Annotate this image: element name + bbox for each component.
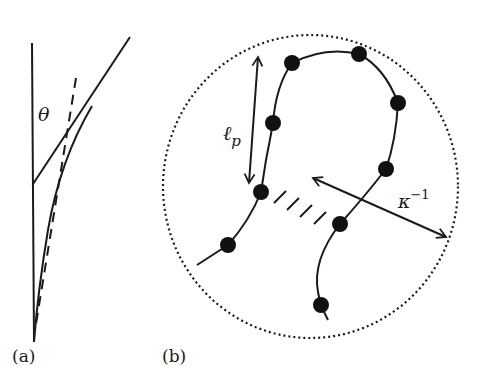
panel-a: θ (a) — [12, 37, 130, 366]
interaction-hash-marks — [274, 191, 326, 224]
bead — [351, 46, 367, 62]
bead — [378, 161, 394, 177]
theta-label: θ — [38, 103, 50, 125]
bead — [313, 297, 329, 313]
vertical-reference-line — [32, 43, 34, 342]
bead — [332, 216, 348, 232]
bent-filament-curve — [34, 106, 92, 342]
panel-b-label: (b) — [162, 346, 186, 366]
bead — [253, 184, 269, 200]
bead — [220, 237, 236, 253]
persistence-length-label: ℓp — [223, 121, 241, 150]
bead — [265, 115, 281, 131]
bead — [390, 95, 406, 111]
polymer-chain — [197, 51, 398, 320]
bead — [284, 55, 300, 71]
figure-canvas: θ (a) ℓp — [0, 0, 478, 385]
panel-b: ℓp κ−1 (b) — [162, 35, 458, 366]
panel-a-label: (a) — [12, 346, 35, 366]
debye-length-label: κ−1 — [397, 187, 430, 212]
persistence-length-arrow — [249, 57, 258, 183]
